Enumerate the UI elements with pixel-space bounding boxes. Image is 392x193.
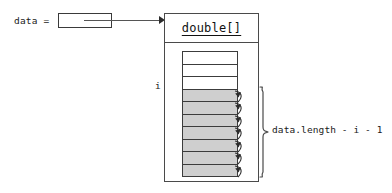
array-cell xyxy=(183,165,237,178)
array-cell xyxy=(183,102,237,115)
array-cell xyxy=(183,90,237,103)
array-cell xyxy=(183,65,237,78)
array-cell xyxy=(183,52,237,65)
array-cell xyxy=(183,77,237,90)
index-variable-label: i xyxy=(155,80,161,91)
array-cell xyxy=(183,127,237,140)
array-cell xyxy=(183,152,237,165)
array-cell xyxy=(183,140,237,153)
variable-label: data = xyxy=(14,15,50,26)
array-object-header: double[] xyxy=(164,13,259,43)
diagram-canvas: data = double[] i data.length - i - 1 xyxy=(0,0,392,193)
curly-brace-right-icon xyxy=(258,86,270,178)
range-annotation-label: data.length - i - 1 xyxy=(272,124,383,135)
array-cell-stack xyxy=(182,51,238,177)
reference-pointer-line xyxy=(84,20,163,21)
array-cell xyxy=(183,115,237,128)
array-type-label: double[] xyxy=(182,21,241,35)
